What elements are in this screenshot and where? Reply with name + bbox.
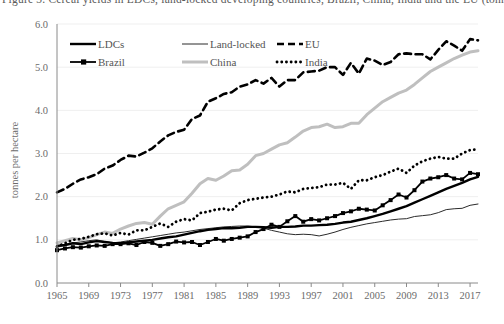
y-tick-label: 0.0	[35, 278, 48, 289]
series-marker-brazil	[325, 216, 329, 220]
x-axis-ticks: 1965196919731977198119851989199319972001…	[47, 283, 481, 301]
series-marker-brazil	[381, 203, 385, 207]
legend-label-land-locked: Land-locked	[210, 38, 266, 50]
series-marker-brazil	[119, 242, 123, 246]
series-line-brazil	[57, 173, 478, 250]
x-tick-label: 1973	[110, 290, 131, 301]
series-marker-brazil	[71, 245, 75, 249]
legend-label-eu: EU	[305, 38, 320, 50]
x-tick-label: 1977	[142, 290, 163, 301]
series-marker-brazil	[301, 220, 305, 224]
series-marker-brazil	[214, 237, 218, 241]
series-marker-brazil	[277, 225, 281, 229]
series-marker-brazil	[126, 241, 130, 245]
series-marker-brazil	[365, 208, 369, 212]
series-marker-brazil	[357, 207, 361, 211]
series-marker-brazil	[317, 218, 321, 222]
series-marker-brazil	[468, 171, 472, 175]
x-tick-label: 1965	[47, 290, 68, 301]
series-marker-brazil	[476, 172, 480, 176]
series-marker-brazil	[222, 239, 226, 243]
series-marker-brazil	[389, 198, 393, 202]
x-tick-label: 1981	[174, 290, 195, 301]
series-marker-brazil	[87, 244, 91, 248]
series-marker-brazil	[142, 240, 146, 244]
x-tick-label: 1989	[237, 290, 258, 301]
series-marker-brazil	[420, 180, 424, 184]
y-tick-label: 1.0	[35, 234, 48, 245]
series-marker-brazil	[238, 236, 242, 240]
series-marker-brazil	[182, 240, 186, 244]
y-axis-title: tonnes per hectare	[9, 121, 20, 198]
series-marker-brazil	[412, 188, 416, 192]
series-marker-brazil	[111, 242, 115, 246]
data-series-layer	[55, 39, 480, 252]
x-tick-label: 1985	[205, 290, 226, 301]
series-marker-brazil	[95, 243, 99, 247]
series-marker-brazil	[134, 243, 138, 247]
series-marker-brazil	[190, 240, 194, 244]
legend-label-china: China	[210, 56, 236, 68]
series-marker-brazil	[246, 234, 250, 238]
x-tick-label: 2001	[332, 290, 353, 301]
x-tick-label: 2017	[460, 290, 481, 301]
series-marker-brazil	[269, 223, 273, 227]
series-marker-brazil	[349, 209, 353, 213]
series-marker-brazil	[309, 217, 313, 221]
legend-label-brazil: Brazil	[98, 56, 125, 68]
series-marker-brazil	[333, 214, 337, 218]
x-tick-label: 1969	[78, 290, 99, 301]
legend-marker-brazil	[81, 59, 86, 64]
y-tick-label: 2.0	[35, 191, 48, 202]
series-line-india	[57, 149, 478, 247]
series-marker-brazil	[428, 177, 432, 181]
series-marker-brazil	[444, 173, 448, 177]
series-marker-brazil	[285, 219, 289, 223]
series-marker-brazil	[293, 214, 297, 218]
series-marker-brazil	[373, 208, 377, 212]
x-tick-label: 2005	[364, 290, 385, 301]
series-marker-brazil	[158, 244, 162, 248]
series-marker-brazil	[452, 177, 456, 181]
x-tick-label: 2009	[396, 290, 417, 301]
series-marker-brazil	[397, 193, 401, 197]
x-tick-label: 1993	[269, 290, 290, 301]
series-marker-brazil	[206, 240, 210, 244]
x-tick-label: 1997	[301, 290, 322, 301]
series-marker-brazil	[341, 211, 345, 215]
y-tick-label: 6.0	[35, 19, 48, 30]
y-tick-label: 3.0	[35, 148, 48, 159]
series-marker-brazil	[150, 241, 154, 245]
chart-container: Figure 3. Cereal yields in LDCs, land-lo…	[0, 0, 504, 324]
y-axis-ticks: 0.01.02.03.04.05.06.0	[35, 19, 48, 289]
chart-legend: LDCsLand-lockedEUBrazilChinaIndia	[70, 38, 328, 68]
chart-svg: 0.01.02.03.04.05.06.0 196519691973197719…	[0, 0, 504, 324]
series-marker-brazil	[79, 246, 83, 250]
series-line-land-locked	[57, 204, 478, 247]
series-marker-brazil	[230, 237, 234, 241]
series-marker-brazil	[198, 243, 202, 247]
series-marker-brazil	[103, 244, 107, 248]
x-tick-label: 2013	[428, 290, 449, 301]
series-marker-brazil	[63, 246, 67, 250]
y-tick-label: 4.0	[35, 105, 48, 116]
y-tick-label: 5.0	[35, 62, 48, 73]
legend-label-india: India	[305, 56, 328, 68]
series-line-ldcs	[57, 177, 478, 246]
series-marker-brazil	[436, 175, 440, 179]
series-marker-brazil	[262, 227, 266, 231]
series-marker-brazil	[174, 240, 178, 244]
legend-label-ldcs: LDCs	[98, 38, 124, 50]
series-marker-brazil	[460, 177, 464, 181]
series-marker-brazil	[405, 196, 409, 200]
series-marker-brazil	[254, 230, 258, 234]
series-marker-brazil	[166, 242, 170, 246]
